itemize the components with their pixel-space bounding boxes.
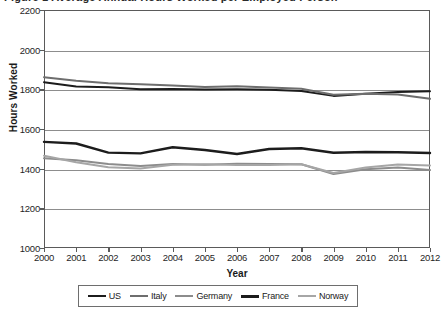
x-tick-label-2003: 2003: [124, 252, 158, 263]
legend-swatch-italy: [130, 295, 148, 297]
legend-label-us: US: [109, 291, 121, 301]
plot-area: [44, 10, 430, 248]
x-tick-label-2005: 2005: [188, 252, 222, 263]
y-axis-ticks: 1000120014001600180020002200: [0, 10, 40, 248]
legend-swatch-france: [241, 295, 259, 298]
y-tick-label-1200: 1200: [0, 203, 40, 214]
x-tick-label-2012: 2012: [413, 252, 445, 263]
legend-swatch-us: [88, 295, 106, 297]
x-tick-label-2000: 2000: [27, 252, 61, 263]
legend-item-italy[interactable]: Italy: [130, 291, 167, 301]
x-tick-label-2011: 2011: [381, 252, 415, 263]
y-tick-label-1800: 1800: [0, 84, 40, 95]
legend-item-germany[interactable]: Germany: [175, 291, 232, 301]
y-tick-label-2200: 2200: [0, 5, 40, 16]
figure-title-cropped: Figure 1 Average Annual Hours Worked per…: [0, 0, 435, 7]
legend-item-france[interactable]: France: [241, 291, 289, 301]
series-line-norway: [44, 156, 430, 173]
x-tick-label-2001: 2001: [59, 252, 93, 263]
series-line-france: [44, 142, 430, 154]
y-tick-label-1400: 1400: [0, 163, 40, 174]
series-lines: [44, 10, 430, 248]
y-tick-label-1600: 1600: [0, 124, 40, 135]
chart-legend: USItalyGermanyFranceNorway: [78, 285, 358, 307]
legend-label-france: France: [262, 291, 289, 301]
y-axis-title: Hours Worked: [8, 58, 19, 138]
x-tick-label-2002: 2002: [91, 252, 125, 263]
legend-label-norway: Norway: [319, 291, 348, 301]
x-tick-label-2008: 2008: [284, 252, 318, 263]
y-tick-label-2000: 2000: [0, 44, 40, 55]
x-tick-label-2010: 2010: [349, 252, 383, 263]
legend-swatch-germany: [175, 295, 193, 297]
x-axis-ticks: 2000200120022003200420052006200720082009…: [44, 248, 430, 264]
legend-item-us[interactable]: US: [88, 291, 121, 301]
legend-item-norway[interactable]: Norway: [298, 291, 348, 301]
x-tick-label-2007: 2007: [252, 252, 286, 263]
legend-label-germany: Germany: [196, 291, 232, 301]
x-tick-label-2004: 2004: [156, 252, 190, 263]
x-axis-title: Year: [44, 268, 430, 279]
legend-swatch-norway: [298, 295, 316, 297]
x-tick-label-2009: 2009: [317, 252, 351, 263]
figure-title-text: Figure 1 Average Annual Hours Worked per…: [4, 0, 338, 3]
x-tick-label-2006: 2006: [220, 252, 254, 263]
legend-label-italy: Italy: [151, 291, 167, 301]
